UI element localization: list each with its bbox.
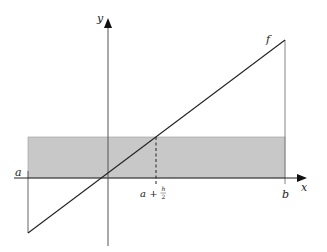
left-endpoint-label: a — [15, 166, 22, 179]
right-endpoint-label: b — [282, 188, 289, 201]
midpoint-fraction-denominator: 2 — [162, 193, 166, 200]
x-axis-label: x — [301, 181, 308, 194]
midpoint-label-prefix: a + — [140, 188, 158, 199]
function-label: f — [265, 33, 272, 46]
midpoint-rule-diagram: y x f a b a + h 2 — [0, 0, 327, 252]
y-axis-label: y — [96, 12, 104, 25]
function-line-f — [28, 40, 285, 233]
midpoint-fraction-numerator: h — [162, 185, 166, 192]
